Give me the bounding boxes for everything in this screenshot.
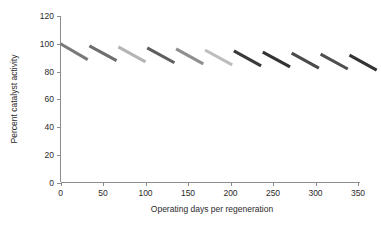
y-axis-tick-label: 40 xyxy=(45,122,55,132)
x-axis-tick-label: 0 xyxy=(58,188,63,198)
data-series-segment xyxy=(147,48,174,63)
data-series-segment xyxy=(263,52,290,67)
x-axis-tick-label: 50 xyxy=(98,188,108,198)
y-axis-tick-label: 80 xyxy=(45,67,55,77)
x-axis-tick-label: 350 xyxy=(351,188,365,198)
data-series-segment xyxy=(321,54,348,69)
data-series-segment xyxy=(176,49,203,64)
y-axis-tick-label: 100 xyxy=(40,39,54,49)
data-series-group xyxy=(61,44,377,70)
y-axis-tick-label: 0 xyxy=(49,178,54,188)
chart-plot: 020406080100120 050100150200250300350 Op… xyxy=(0,0,381,227)
data-series-segment xyxy=(61,44,88,60)
data-series-segment xyxy=(118,47,145,62)
y-axis-tick-label: 60 xyxy=(45,94,55,104)
x-axis-tick-label: 100 xyxy=(138,188,152,198)
data-series-segment xyxy=(234,51,261,66)
data-series-segment xyxy=(292,53,319,68)
y-axis-title: Percent catalyst activity xyxy=(9,54,19,144)
y-axis-tick-label: 20 xyxy=(45,150,55,160)
data-series-segment xyxy=(205,50,232,65)
chart-container: 020406080100120 050100150200250300350 Op… xyxy=(0,0,381,227)
y-axis-tick-label: 120 xyxy=(40,11,54,21)
x-axis-tick-label: 250 xyxy=(266,188,280,198)
data-series-segment xyxy=(89,46,116,61)
x-axis-title: Operating days per regeneration xyxy=(151,204,274,214)
x-axis-tick-label: 150 xyxy=(181,188,195,198)
x-axis-tick-label: 200 xyxy=(223,188,237,198)
data-series-segment xyxy=(350,55,377,70)
x-axis-tick-group: 050100150200250300350 xyxy=(58,183,365,198)
y-axis-tick-group: 020406080100120 xyxy=(40,11,61,188)
x-axis-tick-label: 300 xyxy=(308,188,322,198)
